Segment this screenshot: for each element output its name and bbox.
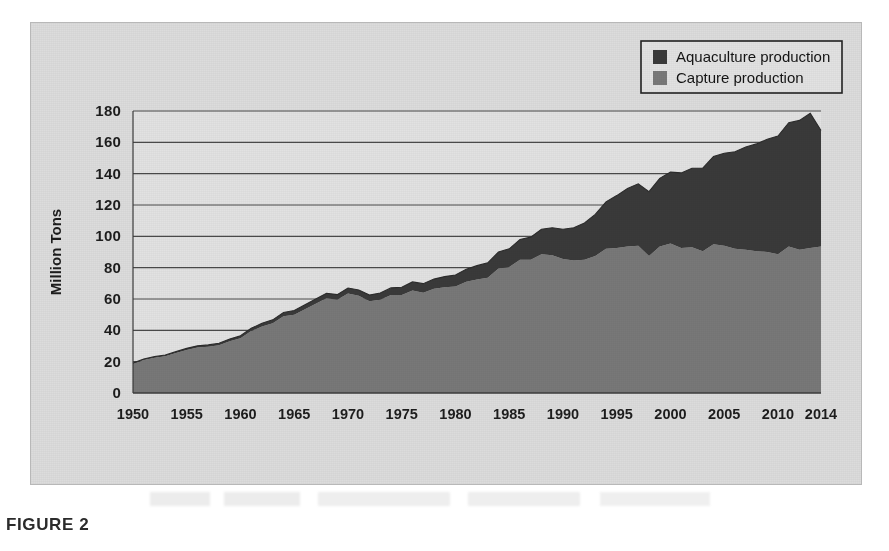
x-tick-label-2014: 2014 bbox=[805, 406, 837, 422]
x-tick-label-1980: 1980 bbox=[439, 406, 471, 422]
legend-label-capture: Capture production bbox=[676, 69, 804, 86]
legend-label-aquaculture: Aquaculture production bbox=[676, 48, 830, 65]
x-tick-label-1990: 1990 bbox=[547, 406, 579, 422]
x-tick-label-1965: 1965 bbox=[278, 406, 310, 422]
x-tick-label-2005: 2005 bbox=[708, 406, 740, 422]
x-axis-tick-labels: 1950195519601965197019751980198519901995… bbox=[117, 406, 837, 422]
x-tick-label-1995: 1995 bbox=[601, 406, 633, 422]
x-tick-label-2000: 2000 bbox=[654, 406, 686, 422]
chart-legend: Aquaculture production Capture productio… bbox=[641, 41, 842, 93]
x-tick-label-1950: 1950 bbox=[117, 406, 149, 422]
legend-swatch-capture bbox=[653, 71, 667, 85]
x-tick-label-1975: 1975 bbox=[386, 406, 418, 422]
figure-panel: 020406080100120140160180 195019551960196… bbox=[30, 22, 862, 485]
y-tick-label-160: 160 bbox=[95, 133, 121, 150]
figure-caption: FIGURE 2 bbox=[6, 515, 89, 535]
y-tick-label-40: 40 bbox=[104, 321, 121, 338]
y-tick-label-180: 180 bbox=[95, 102, 121, 119]
x-tick-label-2010: 2010 bbox=[762, 406, 794, 422]
x-tick-label-1970: 1970 bbox=[332, 406, 364, 422]
y-tick-label-140: 140 bbox=[95, 165, 121, 182]
x-tick-label-1985: 1985 bbox=[493, 406, 525, 422]
y-tick-label-80: 80 bbox=[104, 259, 121, 276]
legend-swatch-aquaculture bbox=[653, 50, 667, 64]
y-tick-label-60: 60 bbox=[104, 290, 121, 307]
y-axis-title: Million Tons bbox=[47, 209, 64, 295]
x-tick-label-1955: 1955 bbox=[171, 406, 203, 422]
y-tick-label-20: 20 bbox=[104, 353, 121, 370]
background-page-text-ghost bbox=[150, 492, 710, 506]
fisheries-production-area-chart: 020406080100120140160180 195019551960196… bbox=[31, 23, 863, 486]
y-tick-label-0: 0 bbox=[112, 384, 121, 401]
y-axis-tick-labels: 020406080100120140160180 bbox=[95, 102, 121, 401]
x-tick-label-1960: 1960 bbox=[224, 406, 256, 422]
y-tick-label-100: 100 bbox=[95, 227, 121, 244]
y-tick-label-120: 120 bbox=[95, 196, 121, 213]
